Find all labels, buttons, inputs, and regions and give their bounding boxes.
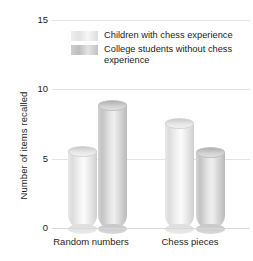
bar-top-ellipse: [165, 118, 194, 129]
gridline-15: [52, 20, 250, 21]
bar-bottom-ellipse: [196, 224, 225, 234]
y-tick-label-5: 5: [24, 153, 48, 164]
bar-top-ellipse: [68, 146, 97, 157]
legend-label-children: Children with chess experience: [104, 30, 233, 42]
gridline-10: [52, 89, 250, 90]
legend-item-college: College students without chess experienc…: [71, 44, 253, 67]
x-axis-baseline: [52, 228, 250, 229]
bar-body: [165, 123, 194, 229]
bar-body: [98, 105, 127, 229]
bar-top-ellipse: [196, 147, 225, 158]
bar-top-ellipse: [98, 100, 127, 111]
legend-label-college: College students without chess experienc…: [104, 44, 253, 67]
legend: Children with chess experience College s…: [71, 30, 253, 69]
x-axis-label-random-numbers: Random numbers: [36, 236, 146, 247]
legend-swatch-dark-icon: [71, 45, 98, 55]
x-axis-label-chess-pieces: Chess pieces: [140, 236, 240, 247]
bar-bottom-ellipse: [98, 224, 127, 234]
y-tick-label-0: 0: [24, 222, 48, 233]
bar-body: [196, 152, 225, 229]
bar-chess-pieces-college: [196, 152, 225, 229]
bar-chart: Number of items recalled 15 10 5 0: [0, 0, 253, 261]
y-tick-label-10: 10: [24, 83, 48, 94]
legend-item-children: Children with chess experience: [71, 30, 253, 42]
bar-random-numbers-college: [98, 105, 127, 229]
bar-chess-pieces-children: [165, 123, 194, 229]
legend-swatch-light-icon: [71, 31, 98, 41]
bar-random-numbers-children: [68, 151, 97, 229]
y-tick-label-15: 15: [24, 14, 48, 25]
bar-bottom-ellipse: [68, 224, 97, 234]
bar-bottom-ellipse: [165, 224, 194, 234]
bar-body: [68, 151, 97, 229]
